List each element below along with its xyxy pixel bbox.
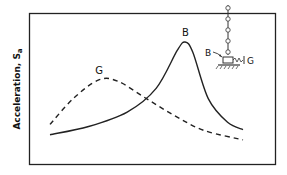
- inset-mass-node: [226, 28, 230, 32]
- y-axis-label-subscript: a: [16, 48, 24, 53]
- series-label-b: B: [182, 27, 189, 38]
- building-isolation-inset: B G: [205, 5, 254, 69]
- inset-mass-node: [226, 17, 230, 21]
- inset-mass-node: [226, 6, 230, 10]
- inset-mass-node: [226, 39, 230, 43]
- inset-label-g: G: [247, 56, 254, 66]
- plot-frame: [30, 14, 276, 165]
- inset-label-b: B: [205, 48, 211, 58]
- inset-spring: [233, 58, 243, 62]
- y-axis-label: Acceleration, Sa: [12, 48, 24, 129]
- series-line-b: [50, 42, 243, 135]
- inset-mass-node: [226, 50, 230, 54]
- svg-text:Acceleration, Sa: Acceleration, Sa: [12, 48, 24, 129]
- inset-isolator: [223, 57, 233, 63]
- response-chart: Acceleration, Sa BG B G: [0, 0, 287, 175]
- series-label-g: G: [95, 65, 103, 76]
- y-axis-label-text: Acceleration, S: [12, 53, 22, 129]
- inset-ground-hatch: [216, 66, 238, 69]
